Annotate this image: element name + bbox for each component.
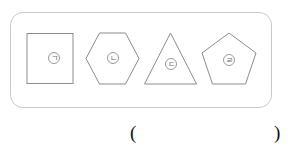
shape-row: ㄱ ㄴ ㄷ ㄹ [11,13,273,109]
shape-marker-4: ㄹ [223,54,235,66]
shape-marker-3: ㄷ [165,58,177,70]
shape-item-pentagon[interactable]: ㄹ [201,31,257,86]
shape-marker-1: ㄱ [48,52,60,64]
shape-marker-2: ㄴ [107,52,119,64]
shape-panel: ㄱ ㄴ ㄷ ㄹ [10,12,272,108]
answer-open-paren: ( [130,118,136,147]
shape-item-triangle[interactable]: ㄷ [143,31,199,86]
figure-root: ㄱ ㄴ ㄷ ㄹ ( ) [0,0,290,147]
shape-item-hexagon[interactable]: ㄴ [85,31,141,86]
answer-blank-field[interactable] [140,118,272,147]
answer-line: ( ) [0,118,290,147]
answer-close-paren: ) [274,118,280,147]
shape-item-square[interactable]: ㄱ [26,31,82,86]
